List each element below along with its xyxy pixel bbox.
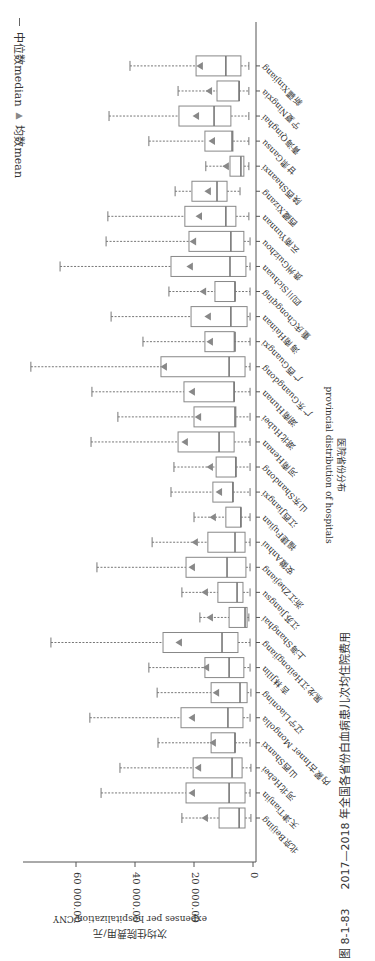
box-21 bbox=[169, 282, 250, 302]
iqr-box bbox=[226, 507, 241, 527]
iqr-box bbox=[208, 532, 245, 552]
box-30 bbox=[130, 56, 249, 76]
iqr-box bbox=[219, 808, 245, 828]
box-3 bbox=[158, 733, 250, 753]
value-tick-label: 0 bbox=[249, 872, 260, 878]
box-26 bbox=[206, 156, 249, 176]
mean-marker bbox=[209, 513, 216, 521]
iqr-box bbox=[205, 658, 244, 678]
box-7 bbox=[51, 633, 250, 653]
box-9 bbox=[182, 582, 250, 602]
iqr-box bbox=[218, 582, 243, 602]
box-11 bbox=[152, 532, 250, 552]
iqr-box bbox=[230, 156, 244, 176]
x-axis-title-en: provincial distribution of hospitals bbox=[323, 365, 335, 565]
legend: 中位数median ▲ 均数mean bbox=[12, 18, 28, 178]
box-14 bbox=[174, 457, 250, 477]
iqr-box bbox=[186, 557, 246, 577]
box-0 bbox=[182, 808, 251, 828]
box-15 bbox=[91, 432, 250, 452]
legend-mean-label: 均数mean bbox=[12, 125, 28, 178]
box-20 bbox=[111, 307, 250, 327]
mean-marker bbox=[206, 87, 213, 95]
caption-number: 图 8-1-83 bbox=[339, 909, 352, 959]
iqr-box bbox=[171, 256, 246, 276]
y-axis-title-en: expenses per hospitalization/CNY bbox=[30, 912, 230, 926]
box-8 bbox=[200, 607, 249, 627]
figure-caption: 图 8-1-83 2017—2018 年全国各省份白血病患儿次均住院费用 bbox=[336, 539, 354, 959]
box-6 bbox=[149, 658, 250, 678]
y-axis-title: 次均住院费用/元 expenses per hospitalization/CN… bbox=[30, 906, 230, 940]
box-28 bbox=[109, 106, 249, 126]
iqr-box bbox=[191, 307, 247, 327]
x-axis-title-zh: 医院省份分布 bbox=[335, 365, 347, 565]
mean-marker bbox=[206, 463, 213, 471]
caption-title: 2017—2018 年全国各省份白血病患儿次均住院费用 bbox=[339, 632, 352, 890]
box-1 bbox=[101, 783, 250, 803]
mean-marker bbox=[201, 814, 208, 822]
box-18 bbox=[31, 357, 250, 377]
box-4 bbox=[90, 708, 250, 728]
y-axis-title-zh: 次均住院费用/元 bbox=[30, 926, 230, 940]
box-16 bbox=[118, 407, 250, 427]
box-29 bbox=[178, 81, 249, 101]
box-22 bbox=[60, 256, 250, 276]
box-25 bbox=[175, 181, 240, 201]
iqr-box bbox=[216, 457, 236, 477]
iqr-box bbox=[217, 81, 239, 101]
mean-marker bbox=[201, 588, 208, 596]
box-23 bbox=[106, 231, 250, 251]
legend-median-label: 中位数median bbox=[12, 32, 28, 106]
iqr-box bbox=[163, 633, 238, 653]
mean-marker bbox=[191, 538, 198, 546]
mean-triangle-icon: ▲ bbox=[15, 112, 25, 119]
box-2 bbox=[120, 758, 251, 778]
iqr-box bbox=[179, 106, 231, 126]
box-13 bbox=[171, 482, 250, 502]
box-10 bbox=[97, 557, 250, 577]
median-line-icon bbox=[20, 18, 21, 26]
iqr-box bbox=[185, 206, 236, 226]
mean-marker bbox=[206, 613, 213, 621]
iqr-box bbox=[215, 282, 235, 302]
mean-marker bbox=[200, 288, 207, 296]
box-27 bbox=[149, 131, 249, 151]
iqr-box bbox=[189, 231, 244, 251]
x-axis-title: 医院省份分布 provincial distribution of hospit… bbox=[317, 365, 347, 565]
mean-marker bbox=[222, 162, 229, 170]
box-5 bbox=[157, 683, 251, 703]
box-12 bbox=[194, 507, 250, 527]
box-24 bbox=[108, 206, 249, 226]
box-17 bbox=[92, 382, 250, 402]
box-series bbox=[31, 56, 251, 828]
box-19 bbox=[143, 332, 250, 352]
iqr-box bbox=[161, 357, 245, 377]
